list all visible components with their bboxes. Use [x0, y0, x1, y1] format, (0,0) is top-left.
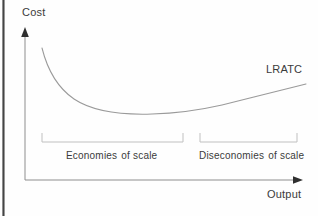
economies-of-scale-label: Economiesof scale: [66, 150, 157, 161]
diseconomies-of-scale-label: Diseconomiesof scale: [199, 150, 304, 161]
lratc-curve: [42, 48, 306, 114]
diseconomies-word-1: Diseconomies: [199, 150, 264, 161]
lratc-diagram-svg: [0, 0, 318, 216]
economies-word-3: scale: [133, 150, 157, 161]
diseconomies-word-2: of: [268, 150, 277, 161]
x-axis-arrowhead-icon: [293, 176, 303, 184]
y-axis-arrowhead-icon: [21, 27, 29, 37]
lratc-curve-label: LRATC: [266, 63, 302, 75]
diseconomies-of-scale-bracket: [200, 133, 297, 142]
x-axis-label: Output: [267, 188, 301, 200]
y-axis-label: Cost: [22, 6, 45, 18]
figure-canvas: Cost Output LRATC Economiesof scale Dise…: [0, 0, 318, 216]
economies-word-1: Economies: [66, 150, 117, 161]
economies-of-scale-bracket: [42, 133, 183, 142]
diseconomies-word-3: scale: [280, 150, 304, 161]
economies-word-2: of: [121, 150, 130, 161]
